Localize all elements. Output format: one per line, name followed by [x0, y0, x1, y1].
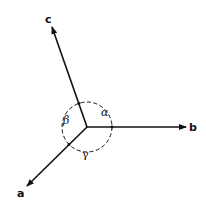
crystal-axes-diagram: α β γ c b a [0, 0, 206, 207]
axis-a-label: a [17, 187, 24, 200]
tick-c [78, 102, 81, 105]
axis-a-line [27, 127, 87, 186]
axis-b-label: b [189, 121, 197, 134]
angle-gamma-label: γ [82, 148, 89, 161]
axis-c-label: c [45, 13, 52, 26]
tick-b [111, 126, 114, 129]
tick-a [68, 143, 71, 146]
angle-alpha-label: α [101, 106, 109, 119]
angle-beta-label: β [62, 114, 69, 127]
axis-c-line [52, 27, 87, 127]
